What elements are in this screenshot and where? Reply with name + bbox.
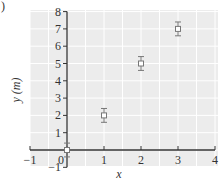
scatter-chart: ) −101234 −112345678 x y (m) [0, 0, 221, 183]
y-tick-label: 6 [55, 39, 61, 53]
x-tick-label: 3 [175, 153, 181, 167]
y-tick-label: 3 [55, 91, 61, 105]
y-tick-label: 7 [55, 22, 61, 36]
y-tick-label: 2 [55, 108, 61, 122]
y-tick-label: 1 [55, 126, 61, 140]
panel-label: ) [1, 0, 5, 13]
x-axis-label: x [115, 167, 122, 181]
x-tick-label: 2 [138, 153, 144, 167]
y-tick-label: −1 [48, 160, 61, 174]
x-tick-label: 4 [212, 153, 218, 167]
x-tick-label: 1 [101, 153, 107, 167]
y-tick-label: 4 [55, 74, 61, 88]
y-tick-label: 5 [55, 57, 61, 71]
y-axis-label: y (m) [9, 78, 23, 104]
y-tick-label: 8 [55, 5, 61, 19]
x-tick-label: −1 [24, 153, 37, 167]
